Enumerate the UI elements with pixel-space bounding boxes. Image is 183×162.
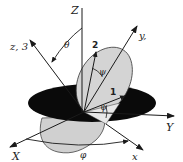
label-Y: Y [166, 121, 175, 134]
label-psi-lower: ψ [100, 102, 108, 112]
label-Z: Z [70, 4, 79, 17]
label-phi: φ [80, 150, 87, 160]
label-x: x [132, 151, 138, 162]
label-1: 1 [110, 87, 116, 97]
euler-angle-diagram: Z z, 3 θ 2 y, ψ 1 ψ Y X x φ [0, 0, 183, 162]
label-z3: z, 3 [9, 41, 28, 52]
label-2: 2 [92, 40, 98, 50]
label-X: X [11, 150, 21, 162]
label-y: y, [138, 30, 147, 41]
x-axis [106, 124, 143, 150]
label-theta: θ [64, 40, 70, 50]
label-psi-upper: ψ [99, 67, 107, 77]
